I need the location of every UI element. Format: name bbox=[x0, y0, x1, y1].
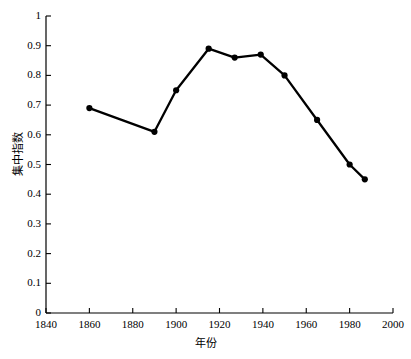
data-point bbox=[173, 87, 179, 93]
y-axis-ticks bbox=[46, 16, 51, 313]
y-tick-label: 0.7 bbox=[0, 99, 41, 110]
data-point bbox=[258, 52, 264, 58]
chart-container: 00.10.20.30.40.50.60.70.80.91 1840186018… bbox=[0, 0, 411, 359]
y-tick-label: 0.1 bbox=[0, 277, 41, 288]
x-tick-label: 2000 bbox=[368, 319, 411, 330]
y-tick-label: 0.8 bbox=[0, 69, 41, 80]
data-series-line bbox=[89, 49, 364, 180]
y-tick-label: 0.9 bbox=[0, 40, 41, 51]
data-point bbox=[362, 176, 368, 182]
data-point bbox=[151, 129, 157, 135]
x-axis-ticks bbox=[46, 308, 393, 313]
data-point bbox=[314, 117, 320, 123]
y-tick-label: 0.2 bbox=[0, 248, 41, 259]
x-axis-title: 年份 bbox=[0, 337, 411, 349]
line-chart-plot bbox=[0, 0, 411, 359]
axis-lines bbox=[46, 16, 393, 313]
y-tick-label: 0.3 bbox=[0, 218, 41, 229]
y-tick-label: 0 bbox=[0, 307, 41, 318]
y-tick-label: 1 bbox=[0, 10, 41, 21]
y-axis-title: 集中指数 bbox=[12, 124, 24, 184]
data-point bbox=[86, 105, 92, 111]
data-point bbox=[347, 161, 353, 167]
data-point bbox=[232, 54, 238, 60]
y-tick-label: 0.4 bbox=[0, 188, 41, 199]
data-point-markers bbox=[86, 46, 368, 183]
data-point bbox=[206, 46, 212, 52]
data-point bbox=[281, 72, 287, 78]
